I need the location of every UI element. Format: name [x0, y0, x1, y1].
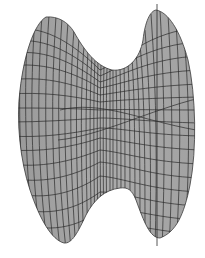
surface-plot: [0, 0, 205, 258]
surface-body: [18, 10, 194, 243]
figure-canvas: Shaded 3D wireframe surface (saddle-shap…: [0, 0, 205, 258]
